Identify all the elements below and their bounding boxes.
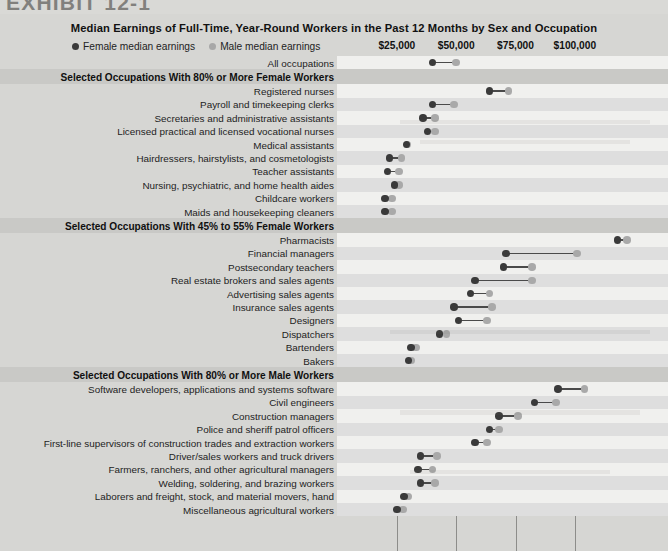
- row-label: Payroll and timekeeping clerks: [200, 99, 334, 110]
- row-band: [337, 476, 668, 489]
- male-data-point: [433, 452, 441, 460]
- row-band: [337, 341, 668, 354]
- female-data-point: [436, 330, 444, 338]
- chart-title: Median Earnings of Full-Time, Year-Round…: [0, 22, 668, 34]
- row-label: Laborers and freight, stock, and materia…: [95, 491, 334, 502]
- male-data-point: [483, 317, 491, 325]
- male-data-point: [388, 195, 396, 203]
- male-data-point: [552, 399, 560, 407]
- row-label: Welding, soldering, and brazing workers: [159, 478, 334, 489]
- row-label: Postsecondary teachers: [228, 262, 334, 273]
- female-data-point: [500, 263, 508, 271]
- male-data-point: [488, 303, 496, 311]
- row-label: Bartenders: [286, 342, 334, 353]
- male-data-point: [505, 87, 513, 95]
- female-data-point: [471, 277, 479, 285]
- female-data-point: [486, 87, 494, 95]
- section-header: Selected Occupations With 80% or More Fe…: [61, 72, 334, 83]
- female-data-point: [400, 493, 408, 501]
- section-header: Selected Occupations With 45% to 55% Fem…: [65, 221, 334, 232]
- female-data-point: [381, 208, 389, 216]
- row-band: [337, 56, 668, 69]
- x-tick-100000: $100,000: [554, 40, 597, 51]
- row-band: [337, 178, 668, 191]
- female-data-point: [450, 303, 458, 311]
- row-label: Driver/sales workers and truck drivers: [169, 451, 334, 462]
- section-header: Selected Occupations With 80% or More Ma…: [73, 370, 334, 381]
- row-band: [337, 287, 668, 300]
- row-band: [337, 111, 668, 124]
- female-data-point: [554, 385, 562, 393]
- row-band: [337, 382, 668, 395]
- row-band: [337, 490, 668, 503]
- x-tick-75000: $75,000: [497, 40, 534, 51]
- row-label: Civil engineers: [269, 397, 334, 408]
- female-data-point: [502, 250, 510, 258]
- female-data-point: [486, 426, 494, 434]
- row-label: All occupations: [268, 58, 334, 69]
- row-label: Miscellaneous agricultural workers: [183, 505, 334, 516]
- row-label: Teacher assistants: [252, 166, 334, 177]
- row-label: Medical assistants: [253, 140, 334, 151]
- row-label: Nursing, psychiatric, and home health ai…: [142, 180, 334, 191]
- female-data-point: [417, 452, 425, 460]
- row-label: Construction managers: [232, 411, 334, 422]
- row-label: Licensed practical and licensed vocation…: [117, 126, 334, 137]
- female-data-point: [381, 195, 389, 203]
- row-label: Childcare workers: [255, 193, 334, 204]
- row-label: Hairdressers, hairstylists, and cosmetol…: [136, 153, 334, 164]
- row-band: [337, 125, 668, 138]
- row-label: Insurance sales agents: [232, 302, 334, 313]
- gap-connector: [454, 306, 492, 308]
- female-data-point: [614, 236, 622, 244]
- female-data-point: [417, 479, 425, 487]
- row-label: Maids and housekeeping cleaners: [184, 207, 334, 218]
- female-data-point: [407, 344, 415, 352]
- x-tick-25000: $25,000: [378, 40, 415, 51]
- row-label: Designers: [290, 315, 334, 326]
- row-band: [337, 314, 668, 327]
- x-axis-tick-labels: $25,000$50,000$75,000$100,000: [0, 40, 668, 54]
- row-band: [337, 463, 668, 476]
- male-data-point: [528, 263, 536, 271]
- row-label: Advertising sales agents: [227, 289, 334, 300]
- row-band: [337, 300, 668, 313]
- plot-area: All occupationsSelected Occupations With…: [0, 56, 668, 551]
- male-data-point: [443, 330, 451, 338]
- row-band: [337, 327, 668, 340]
- row-label: Dispatchers: [282, 329, 334, 340]
- row-label: Registered nurses: [254, 86, 334, 97]
- male-data-point: [431, 479, 439, 487]
- row-label: Bakers: [303, 356, 334, 367]
- male-data-point: [528, 277, 536, 285]
- row-label: Financial managers: [248, 248, 334, 259]
- row-label: Police and sheriff patrol officers: [197, 424, 334, 435]
- male-data-point: [431, 114, 439, 122]
- x-tick-50000: $50,000: [438, 40, 475, 51]
- row-label: Software developers, applications and sy…: [88, 384, 334, 395]
- row-band: [337, 98, 668, 111]
- male-data-point: [514, 412, 522, 420]
- row-label: First-line supervisors of construction t…: [44, 438, 334, 449]
- row-band: [337, 354, 668, 367]
- male-data-point: [398, 154, 406, 162]
- row-band: [337, 449, 668, 462]
- exhibit-heading: EXHIBIT 12-1: [6, 0, 151, 15]
- row-label: Secretaries and administrative assistant…: [155, 113, 334, 124]
- row-label: Real estate brokers and sales agents: [171, 275, 334, 286]
- male-data-point: [623, 236, 631, 244]
- row-band: [337, 436, 668, 449]
- male-data-point: [450, 101, 458, 109]
- chart-panel: Median Earnings of Full-Time, Year-Round…: [0, 14, 668, 551]
- row-label: Farmers, ranchers, and other agricultura…: [108, 464, 334, 475]
- female-data-point: [495, 412, 503, 420]
- male-data-point: [581, 385, 589, 393]
- gap-connector: [475, 280, 532, 282]
- male-data-point: [431, 128, 439, 136]
- row-band: [337, 138, 668, 151]
- gap-connector: [506, 253, 577, 255]
- female-data-point: [414, 466, 422, 474]
- female-data-point: [393, 506, 401, 514]
- row-band: [337, 503, 668, 516]
- row-band: [337, 396, 668, 409]
